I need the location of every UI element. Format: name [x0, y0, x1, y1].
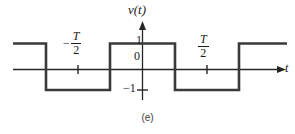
minus-sign: − — [63, 37, 70, 49]
x-tick-label-half-period: T 2 — [198, 30, 209, 59]
y-tick-label-zero: 0 — [134, 50, 140, 62]
fraction-numerator: T — [198, 33, 209, 47]
y-tick-label-negative-one: −1 — [123, 82, 136, 94]
x-axis-label: t — [285, 62, 288, 74]
y-tick-label-one: 1 — [136, 34, 142, 46]
y-axis-label: v(t) — [128, 3, 146, 16]
fraction-denominator: 2 — [71, 44, 82, 57]
figure-caption: (e) — [0, 113, 295, 123]
fraction-denominator: 2 — [198, 47, 209, 60]
fraction-numerator: T — [71, 30, 82, 44]
figure-square-wave-plot: v(t) t 1 0 −1 − T 2 T 2 (e) — [0, 0, 295, 134]
x-tick-label-negative-half-period: − T 2 — [63, 30, 81, 56]
waveform-square-wave — [13, 44, 287, 91]
x-axis — [13, 66, 286, 73]
